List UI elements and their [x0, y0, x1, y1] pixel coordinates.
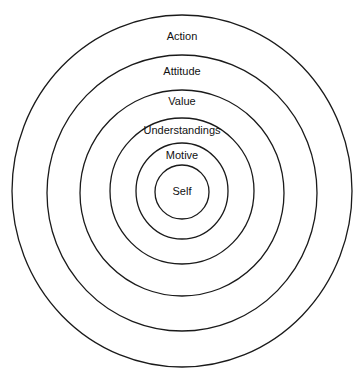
label-motive: Motive — [166, 149, 198, 161]
label-self: Self — [173, 185, 193, 197]
label-value: Value — [168, 95, 195, 107]
layer-self: Self — [155, 165, 209, 219]
concentric-layers-diagram: Action Attitude Value Understandings Mot… — [0, 0, 362, 376]
label-action: Action — [167, 30, 198, 42]
label-understandings: Understandings — [143, 124, 221, 136]
label-attitude: Attitude — [163, 65, 200, 77]
